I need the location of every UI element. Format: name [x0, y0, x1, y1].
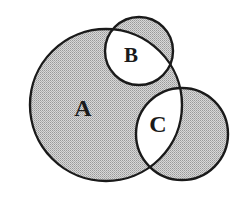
label-b: B	[124, 43, 138, 67]
shaded-region	[30, 17, 228, 181]
label-c: C	[149, 111, 166, 137]
venn-diagram: ABC	[0, 0, 238, 198]
label-a: A	[74, 95, 92, 121]
